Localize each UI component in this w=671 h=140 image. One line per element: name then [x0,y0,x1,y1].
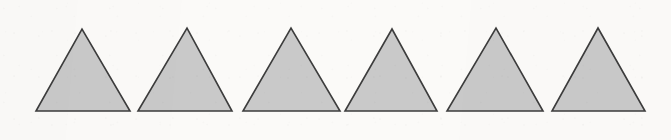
scanned-figure-sheet [0,0,671,140]
triangle-2 [138,28,232,111]
triangle-6 [552,28,645,111]
triangle-5 [447,28,543,111]
triangle-4 [345,29,437,111]
triangle-3 [243,28,340,111]
triangle-row-canvas [0,0,671,140]
triangle-1 [36,29,130,111]
triangle-group [36,28,645,111]
